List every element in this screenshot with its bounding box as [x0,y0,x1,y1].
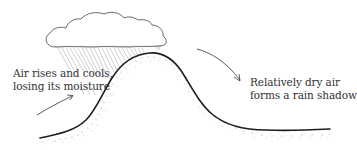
leeward-label: Relatively dry air forms a rain shadow [250,76,357,102]
windward-label-line-2: losing its moisture [13,80,113,93]
leeward-label-line-1: Relatively dry air [250,76,357,89]
leeward-label-line-2: forms a rain shadow [250,89,357,102]
windward-label-line-1: Air rises and cools, [13,67,113,80]
cloud-icon [46,12,166,47]
windward-label: Air rises and cools, losing its moisture [13,67,113,93]
rising-air-arrow-icon [37,95,73,115]
descending-air-arrow-icon [197,49,240,81]
